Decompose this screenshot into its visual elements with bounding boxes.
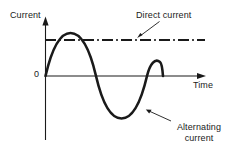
x-axis	[46, 73, 207, 79]
direct-current-leader-line	[140, 22, 160, 37]
origin-label: 0	[34, 69, 39, 80]
direct-current-leader-arrowhead-icon	[137, 33, 142, 38]
y-axis-label: Current	[10, 10, 41, 21]
direct-current-leader	[137, 22, 159, 39]
alternating-current-leader-line	[149, 111, 171, 121]
alternating-current-leader	[146, 110, 171, 122]
alternating-current-annotation-label: Alternating current	[170, 122, 228, 143]
y-axis-arrowhead-icon	[42, 17, 48, 26]
direct-current-annotation-label: Direct current	[136, 10, 191, 21]
x-axis-arrowhead-icon	[197, 73, 206, 79]
figure-container: Current Time 0 Direct current Alternatin…	[0, 0, 231, 150]
y-axis	[42, 17, 48, 141]
alternating-current-label-line2: current	[185, 133, 214, 143]
x-axis-label: Time	[193, 80, 213, 91]
alternating-current-label-line1: Alternating	[177, 122, 221, 132]
